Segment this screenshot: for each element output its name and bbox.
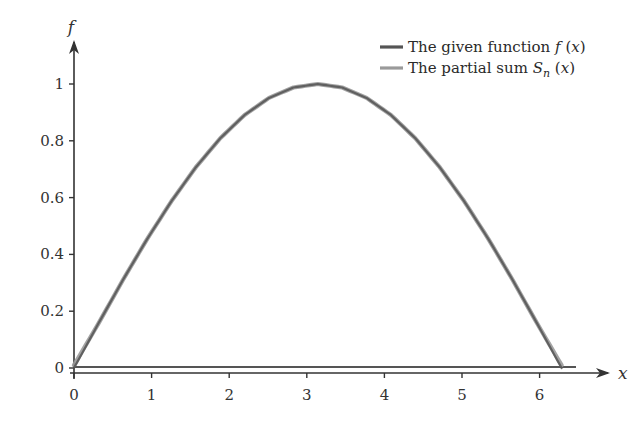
y-tick-label: 0	[54, 359, 64, 377]
plot-area: fx00.20.40.60.810123456The given functio…	[40, 17, 628, 404]
series-partial-sum	[74, 84, 562, 365]
x-tick-label: 0	[69, 386, 79, 404]
x-tick-label: 2	[224, 386, 234, 404]
legend-label-partial-sum: The partial sum Sn (x)	[408, 59, 575, 80]
series-given-function	[74, 84, 562, 368]
x-tick-label: 5	[457, 386, 467, 404]
y-axis-label: f	[66, 17, 77, 37]
y-tick-label: 0.6	[40, 189, 64, 207]
y-tick-label: 1	[54, 75, 64, 93]
legend: The given function f (x)The partial sum …	[380, 38, 586, 80]
x-tick-label: 3	[302, 386, 312, 404]
x-axis-label: x	[618, 363, 628, 383]
x-tick-label: 4	[380, 386, 390, 404]
legend-label-given-function: The given function f (x)	[408, 38, 586, 56]
x-tick-label: 1	[147, 386, 157, 404]
chart: fx00.20.40.60.810123456The given functio…	[0, 0, 644, 437]
y-tick-label: 0.4	[40, 245, 64, 263]
y-tick-label: 0.2	[40, 302, 64, 320]
y-tick-label: 0.8	[40, 132, 64, 150]
x-tick-label: 6	[535, 386, 545, 404]
